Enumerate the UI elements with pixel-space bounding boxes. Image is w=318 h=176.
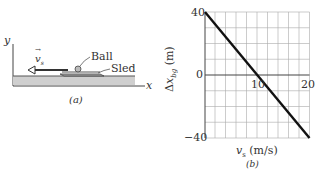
panel-b-chart — [205, 12, 310, 138]
ball-shape — [75, 66, 81, 72]
panel-b-caption: (b) — [246, 159, 259, 169]
chart-x-label: vs (m/s) — [236, 144, 278, 159]
ytick-0: 0 — [196, 68, 203, 81]
sled-leader-line — [98, 69, 110, 73]
ytick-40: 40 — [191, 6, 205, 19]
chart-y-label: Δxbg (m) — [163, 46, 178, 92]
axis-x-label: x — [146, 79, 152, 92]
panel-a-caption: (a) — [69, 94, 83, 105]
ground-surface — [13, 76, 135, 85]
ball-leader-line — [80, 57, 90, 66]
sled-shape — [60, 74, 104, 76]
xtick-20: 20 — [301, 78, 315, 91]
velocity-label: →vs — [35, 53, 44, 66]
ball-label: Ball — [91, 50, 113, 63]
arrow-head-icon — [28, 66, 35, 74]
axis-y-label: y — [4, 34, 10, 47]
xtick-10: 10 — [251, 78, 265, 91]
vector-arrow-icon: → — [35, 46, 41, 54]
sled-label: Sled — [111, 62, 136, 75]
ytick-neg40: −40 — [184, 131, 207, 144]
